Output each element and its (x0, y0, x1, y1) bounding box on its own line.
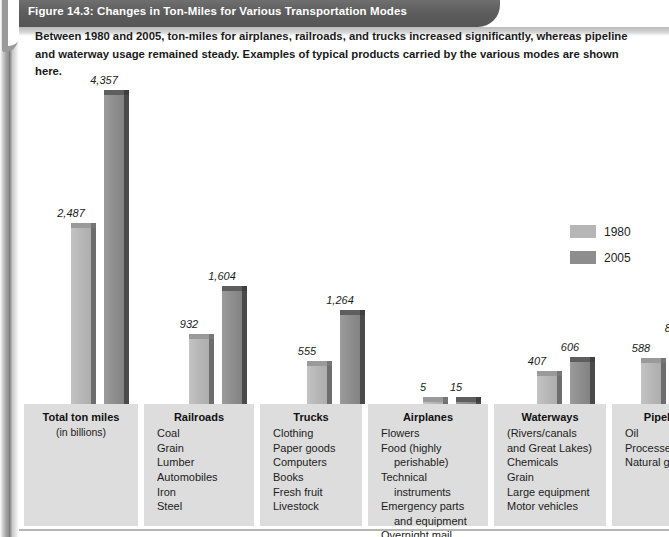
bar-value-label: 868 (665, 322, 669, 334)
bar-side (242, 290, 247, 404)
bar-face (104, 94, 124, 404)
bar-top (307, 361, 327, 366)
bar-value-label: 932 (180, 318, 198, 330)
category-item: Iron (157, 485, 254, 500)
category-item: instruments (381, 485, 488, 500)
page-edge-inner-decoration (9, 0, 19, 537)
bar-topside (360, 310, 365, 315)
category-item-list: (Rivers/canalsand Great Lakes)ChemicalsG… (494, 426, 606, 514)
category-item-list: CoalGrainLumberAutomobilesIronSteel (144, 426, 254, 514)
category-item: Livestock (273, 499, 362, 514)
category-item: and equipment (381, 514, 488, 529)
category-item: and Great Lakes) (507, 441, 606, 456)
category-item-list: FlowersFood (highlyperishable)Technicali… (368, 426, 488, 537)
bar-side (590, 361, 595, 404)
bar-face (71, 227, 91, 404)
bar-top (189, 334, 209, 339)
bar-side (91, 227, 96, 404)
category-item: Grain (157, 441, 254, 456)
category-item: Motor vehicles (507, 499, 606, 514)
bar-value-label: 588 (632, 342, 650, 354)
category-item-list: ClothingPaper goodsComputersBooksFresh f… (260, 426, 362, 514)
bar-topside (557, 371, 562, 376)
bar-value-label: 5 (420, 381, 426, 393)
category-box-airplanes: AirplanesFlowersFood (highlyperishable)T… (368, 404, 488, 526)
bar-top (104, 90, 124, 95)
bar-face (641, 362, 661, 404)
category-item: (Rivers/canals (507, 426, 606, 441)
category-title: Trucks (260, 411, 362, 423)
bar-shape (570, 361, 590, 404)
category-item: Oil (625, 426, 669, 441)
bar-top (423, 397, 443, 402)
category-item: Books (273, 470, 362, 485)
legend-item-1980[interactable]: 1980 (570, 222, 631, 241)
bar-topside (209, 334, 214, 339)
legend-swatch-icon-2005 (570, 251, 596, 264)
category-item: Paper goods (273, 441, 362, 456)
bar-value-label: 1,604 (208, 270, 236, 282)
category-item: Fresh fruit (273, 485, 362, 500)
category-legend-boxes: Total ton miles(in billions)RailroadsCoa… (24, 404, 664, 526)
bar-face (537, 375, 557, 404)
category-item: Lumber (157, 455, 254, 470)
bar-topside (327, 361, 332, 366)
legend-label-2005: 2005 (604, 251, 631, 265)
bar-top (456, 397, 476, 402)
bar-topside (661, 358, 666, 363)
category-item: Technical (381, 470, 488, 485)
bar-shape (641, 362, 661, 404)
category-box-total-ton-miles: Total ton miles(in billions) (24, 404, 138, 526)
category-title: Airplanes (368, 411, 488, 423)
category-box-railroads: RailroadsCoalGrainLumberAutomobilesIronS… (144, 404, 254, 526)
bar-face (307, 365, 327, 404)
category-item: Chemicals (507, 455, 606, 470)
category-item: Flowers (381, 426, 488, 441)
category-item: Automobiles (157, 470, 254, 485)
bar-side (209, 338, 214, 404)
category-title: Waterways (494, 411, 606, 423)
bar-face (340, 314, 360, 404)
legend-item-2005[interactable]: 2005 (570, 248, 631, 267)
bar-topside (91, 223, 96, 228)
bar-side (360, 314, 365, 404)
bar-top (570, 357, 590, 362)
category-item: perishable) (381, 455, 488, 470)
category-box-pipelines: PipelinesOilProcessed coalNatural gas (612, 404, 669, 526)
category-item: Natural gas (625, 455, 669, 470)
category-box-waterways: Waterways(Rivers/canalsand Great Lakes)C… (494, 404, 606, 526)
bar-top (537, 371, 557, 376)
bar-topside (242, 286, 247, 291)
page-edge-decoration (0, 0, 9, 537)
bar-value-label: 2,487 (57, 207, 85, 219)
category-title: Total ton miles (24, 411, 138, 423)
category-item: Steel (157, 499, 254, 514)
bar-top (641, 358, 661, 363)
category-box-trucks: TrucksClothingPaper goodsComputersBooksF… (260, 404, 362, 526)
category-title: Railroads (144, 411, 254, 423)
bar-shape (71, 227, 91, 404)
bottom-divider (19, 529, 669, 531)
category-title: Pipelines (612, 411, 669, 423)
bar-top (340, 310, 360, 315)
bar-shape (189, 338, 209, 404)
bar-chart-plot: 2,4874,3579321,6045551,26451540760658886… (19, 36, 669, 404)
category-item: Grain (507, 470, 606, 485)
category-item-list: OilProcessed coalNatural gas (612, 426, 669, 470)
bar-shape (104, 94, 124, 404)
chart-legend: 1980 2005 (570, 222, 631, 274)
bar-shape (340, 314, 360, 404)
bar-value-label: 15 (450, 381, 462, 393)
bar-value-label: 1,264 (326, 294, 354, 306)
category-item: Computers (273, 455, 362, 470)
bar-face (189, 338, 209, 404)
category-item: Processed coal (625, 441, 669, 456)
bar-side (661, 362, 666, 404)
category-item: Coal (157, 426, 254, 441)
category-item: Food (highly (381, 441, 488, 456)
bar-face (222, 290, 242, 404)
bar-face (570, 361, 590, 404)
bar-top (222, 286, 242, 291)
category-item: Clothing (273, 426, 362, 441)
bar-value-label: 4,357 (90, 74, 118, 86)
